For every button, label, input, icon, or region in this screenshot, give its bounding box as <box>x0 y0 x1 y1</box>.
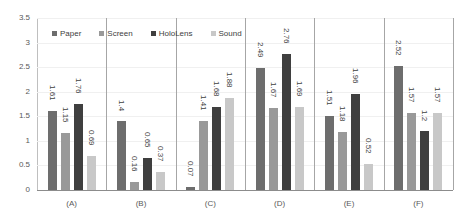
group-divider <box>176 18 177 190</box>
value-label: 2.76 <box>282 28 291 44</box>
bar-paper-4 <box>325 116 334 190</box>
value-label: 0.52 <box>364 138 373 154</box>
bar-hololens-3 <box>282 54 291 190</box>
legend-item-sound: Sound <box>211 29 242 38</box>
bar-paper-2 <box>186 187 195 190</box>
value-label: 1.15 <box>61 107 70 123</box>
group-divider <box>106 18 107 190</box>
bar-paper-5 <box>394 66 403 190</box>
bar-screen-0 <box>61 133 70 190</box>
y-tick-label: 3.5 <box>0 13 30 23</box>
value-label: 0.37 <box>156 146 165 162</box>
value-label: 1.2 <box>420 110 429 121</box>
x-category-label: (B) <box>121 199 161 208</box>
legend-item-paper: Paper <box>52 29 81 38</box>
legend-item-screen: Screen <box>99 29 132 38</box>
value-label: 1.76 <box>74 78 83 94</box>
value-label: 1.41 <box>199 95 208 111</box>
bar-screen-5 <box>407 113 416 190</box>
value-label: 1.57 <box>433 87 442 103</box>
legend-label: Sound <box>219 29 242 38</box>
bar-sound-0 <box>87 156 96 190</box>
y-tick-label: 1 <box>0 136 30 146</box>
value-label: 1.57 <box>407 87 416 103</box>
value-label: 1.51 <box>325 90 334 106</box>
group-divider <box>245 18 246 190</box>
bar-sound-5 <box>433 113 442 190</box>
x-axis-line <box>37 190 453 191</box>
x-category-label: (F) <box>398 199 438 208</box>
value-label: 1.4 <box>117 100 126 111</box>
value-label: 1.61 <box>48 85 57 101</box>
x-category-label: (A) <box>52 199 92 208</box>
legend-item-hololens: HoloLens <box>151 29 193 38</box>
bar-sound-3 <box>295 107 304 190</box>
bar-screen-1 <box>130 182 139 190</box>
y-axis-line <box>37 18 38 190</box>
grouped-bar-chart: 00.511.522.533.5 1.611.151.760.691.40.16… <box>0 0 472 215</box>
legend-label: Screen <box>107 29 132 38</box>
x-category-label: (C) <box>190 199 230 208</box>
legend-swatch-icon <box>99 31 104 36</box>
bar-sound-1 <box>156 172 165 190</box>
value-label: 0.07 <box>186 161 195 177</box>
group-divider <box>314 18 315 190</box>
value-label: 1.69 <box>295 81 304 97</box>
bar-hololens-2 <box>212 107 221 190</box>
x-category-label: (D) <box>260 199 300 208</box>
value-label: 2.49 <box>256 42 265 58</box>
group-divider <box>453 18 454 190</box>
group-divider <box>384 18 385 190</box>
legend-swatch-icon <box>52 31 57 36</box>
legend-swatch-icon <box>211 31 216 36</box>
bar-hololens-0 <box>74 104 83 190</box>
x-category-label: (E) <box>329 199 369 208</box>
bar-hololens-5 <box>420 131 429 190</box>
y-tick-label: 3 <box>0 38 30 48</box>
value-label: 1.67 <box>269 82 278 98</box>
value-label: 1.18 <box>338 106 347 122</box>
legend-label: HoloLens <box>159 29 193 38</box>
bar-hololens-4 <box>351 94 360 190</box>
bar-hololens-1 <box>143 158 152 190</box>
y-tick-label: 2 <box>0 87 30 97</box>
bar-screen-2 <box>199 121 208 190</box>
y-tick-label: 2.5 <box>0 62 30 72</box>
value-label: 0.69 <box>87 130 96 146</box>
legend-swatch-icon <box>151 31 156 36</box>
bar-paper-3 <box>256 68 265 190</box>
value-label: 0.65 <box>143 132 152 148</box>
bar-paper-0 <box>48 111 57 190</box>
bar-screen-4 <box>338 132 347 190</box>
value-label: 0.16 <box>130 156 139 172</box>
y-tick-label: 0.5 <box>0 160 30 170</box>
value-label: 1.88 <box>225 72 234 88</box>
bar-paper-1 <box>117 121 126 190</box>
y-tick-label: 0 <box>0 185 30 195</box>
legend-label: Paper <box>60 29 81 38</box>
value-label: 1.68 <box>212 81 221 97</box>
bar-screen-3 <box>269 108 278 190</box>
bar-sound-2 <box>225 98 234 190</box>
value-label: 2.52 <box>394 40 403 56</box>
value-label: 1.96 <box>351 68 360 84</box>
legend: PaperScreenHoloLensSound <box>52 29 242 38</box>
y-tick-label: 1.5 <box>0 111 30 121</box>
bar-sound-4 <box>364 164 373 190</box>
